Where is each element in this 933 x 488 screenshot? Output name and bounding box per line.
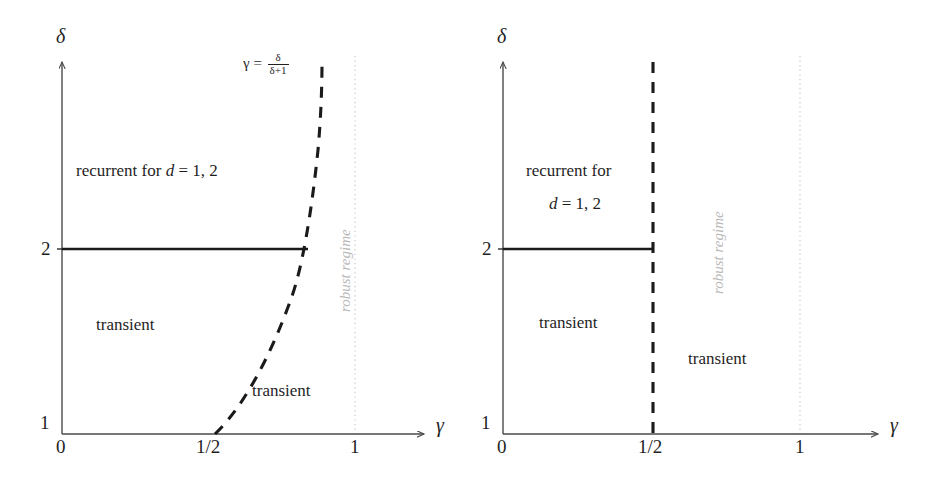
region-label-recurrent-line1: recurrent for: [526, 162, 611, 179]
region-label-recurrent-d: d: [549, 194, 558, 213]
curve-equation-numerator: δ: [268, 52, 289, 64]
curve-equation-lhs: γ: [243, 55, 250, 71]
region-label-transient-right: transient: [252, 382, 311, 399]
x-axis-label-gamma: γ: [436, 415, 444, 435]
right-phase-diagram-panel: δ γ 1 2 0 1/2 1 recurrent for d = 1, 2 t…: [466, 0, 933, 488]
x-axis-label-gamma: γ: [890, 415, 898, 435]
region-label-recurrent-line2: d = 1, 2: [549, 195, 601, 212]
robust-regime-label: robust regime: [711, 211, 726, 294]
y-axis-label-delta: δ: [56, 26, 65, 46]
y-tick-label-1: 1: [40, 413, 50, 432]
robust-regime-label: robust regime: [338, 229, 353, 312]
phase-diagram-figure: δ γ 1 2 0 1/2 1 γ = δ δ+1 recurrent for …: [0, 0, 933, 488]
y-tick-label-2: 2: [482, 239, 492, 258]
region-label-transient-right: transient: [688, 350, 747, 367]
y-tick-label-2: 2: [41, 239, 51, 258]
region-label-recurrent-dims: = 1, 2: [558, 194, 602, 213]
x-tick-label-half: 1/2: [196, 437, 220, 456]
region-label-recurrent-prefix: recurrent for: [76, 161, 166, 180]
region-label-transient-left: transient: [96, 316, 155, 333]
right-panel-graphics: [466, 0, 933, 488]
x-tick-label-0: 0: [497, 437, 507, 456]
region-label-recurrent-d: d: [166, 161, 175, 180]
region-label-transient-left: transient: [539, 314, 598, 331]
left-phase-diagram-panel: δ γ 1 2 0 1/2 1 γ = δ δ+1 recurrent for …: [0, 0, 466, 488]
x-tick-label-one: 1: [795, 437, 805, 456]
curve-equation-equals: =: [253, 55, 261, 71]
x-tick-label-one: 1: [350, 437, 360, 456]
curve-equation-fraction: δ δ+1: [268, 52, 289, 77]
curve-equation-label: γ = δ δ+1: [243, 52, 291, 77]
y-axis-label-delta: δ: [497, 26, 506, 46]
left-panel-graphics: [0, 0, 466, 488]
y-tick-label-1: 1: [481, 413, 491, 432]
curve-equation-denominator: δ+1: [268, 64, 289, 77]
x-tick-label-0: 0: [56, 437, 66, 456]
x-tick-label-half: 1/2: [638, 437, 662, 456]
region-label-recurrent: recurrent for d = 1, 2: [76, 162, 218, 179]
region-label-recurrent-suffix: = 1, 2: [174, 161, 218, 180]
